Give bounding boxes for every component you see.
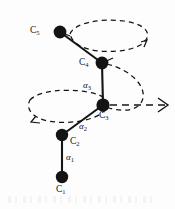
right-rotation-arc — [106, 64, 143, 110]
scan-noise-artifact — [8, 196, 158, 203]
molecular-chain-figure: C5 C4 C3 C2 C1 α1 α2 α3 — [0, 0, 175, 209]
lower-rotation-ellipse — [29, 90, 108, 123]
atom-label-c2: C2 — [70, 137, 80, 147]
angle-label-alpha3: α3 — [83, 81, 91, 90]
atom-node-c2 — [56, 129, 68, 141]
angle-label-alpha2: α2 — [79, 122, 87, 131]
figure-canvas — [0, 0, 175, 209]
atom-label-c4: C4 — [79, 58, 89, 68]
atom-node-c4 — [96, 57, 109, 70]
angle-label-alpha1: α1 — [66, 153, 74, 162]
atom-node-c5 — [54, 26, 67, 39]
atom-node-c1 — [56, 171, 68, 183]
atom-label-c5: C5 — [30, 26, 40, 36]
atom-label-c1: C1 — [56, 185, 66, 195]
atom-label-c3: C3 — [99, 111, 109, 121]
